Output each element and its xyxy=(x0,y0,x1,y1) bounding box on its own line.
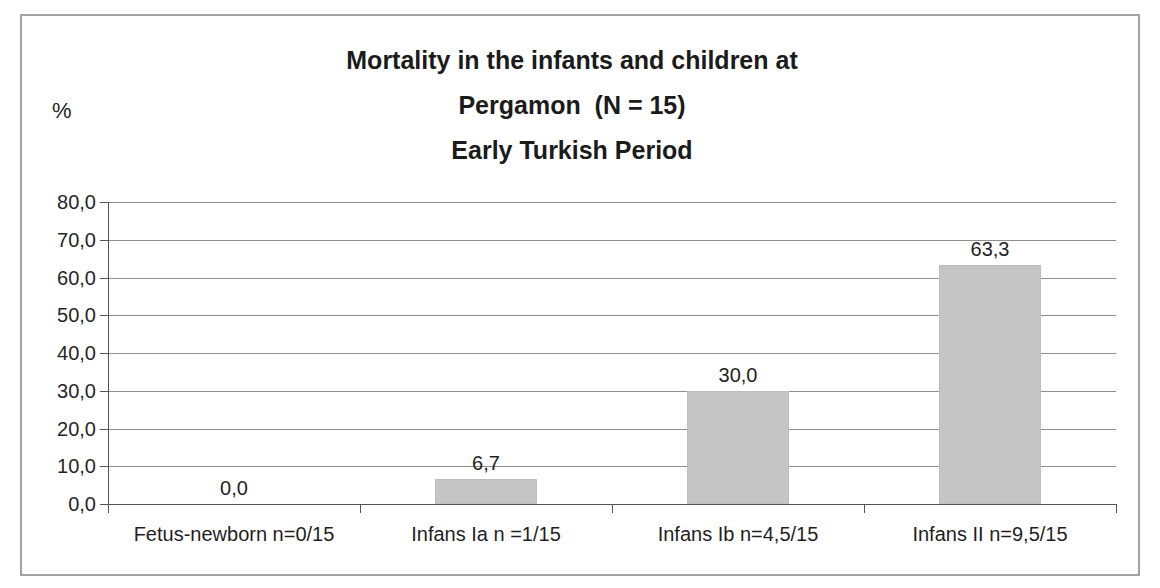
x-tick-mark xyxy=(864,504,865,513)
y-tick-mark xyxy=(100,504,108,505)
y-tick-mark xyxy=(100,202,108,203)
y-tick-mark xyxy=(100,391,108,392)
y-tick-mark xyxy=(100,315,108,316)
y-tick-mark xyxy=(100,429,108,430)
y-tick-label: 0,0 xyxy=(22,491,96,517)
x-category-label: Infans II n=9,5/15 xyxy=(864,522,1116,546)
data-label: 0,0 xyxy=(108,475,360,501)
data-label: 30,0 xyxy=(612,362,864,388)
x-tick-mark xyxy=(360,504,361,513)
x-tick-mark xyxy=(612,504,613,513)
y-tick-label: 50,0 xyxy=(22,302,96,328)
y-tick-label: 80,0 xyxy=(22,189,96,215)
y-tick-mark xyxy=(100,240,108,241)
y-tick-label: 30,0 xyxy=(22,378,96,404)
x-category-label: Infans Ia n =1/15 xyxy=(360,522,612,546)
chart-frame: Mortality in the infants and children at… xyxy=(20,14,1140,576)
y-tick-mark xyxy=(100,466,108,467)
gridline xyxy=(108,202,1116,203)
x-category-label: Infans Ib n=4,5/15 xyxy=(612,522,864,546)
y-tick-label: 40,0 xyxy=(22,340,96,366)
data-label: 63,3 xyxy=(864,236,1116,262)
bar xyxy=(687,391,789,504)
y-tick-label: 10,0 xyxy=(22,453,96,479)
y-tick-mark xyxy=(100,278,108,279)
x-tick-mark xyxy=(108,504,109,513)
bar xyxy=(435,479,537,504)
plot-area: 80,070,060,050,040,030,020,010,00,00,0Fe… xyxy=(22,16,1138,574)
y-tick-mark xyxy=(100,353,108,354)
y-tick-label: 70,0 xyxy=(22,227,96,253)
y-tick-label: 60,0 xyxy=(22,265,96,291)
data-label: 6,7 xyxy=(360,450,612,476)
x-category-label: Fetus-newborn n=0/15 xyxy=(108,522,360,546)
x-tick-mark xyxy=(1116,504,1117,513)
y-tick-label: 20,0 xyxy=(22,416,96,442)
y-axis-line xyxy=(108,202,109,504)
bar xyxy=(939,265,1041,504)
